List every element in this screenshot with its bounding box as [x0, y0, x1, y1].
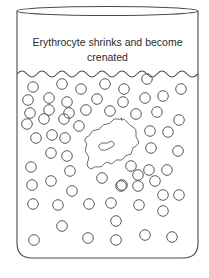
particle: [62, 151, 73, 162]
particle: [142, 74, 153, 85]
particle: [65, 166, 76, 177]
particle: [111, 235, 122, 246]
particle: [60, 133, 71, 144]
label: Erythrocyte shrinks and become crenated: [33, 36, 183, 63]
particle: [31, 133, 42, 144]
particle: [84, 199, 95, 210]
particle: [83, 233, 94, 244]
particle: [44, 93, 55, 104]
particle: [163, 127, 174, 138]
particle: [144, 165, 155, 176]
particle: [23, 95, 34, 106]
particle: [105, 106, 116, 117]
particle: [39, 114, 50, 125]
particle: [46, 148, 57, 159]
particle: [152, 107, 163, 118]
particle: [174, 115, 185, 126]
particle: [150, 176, 161, 187]
particle: [126, 161, 137, 172]
particle: [28, 82, 39, 93]
particle: [140, 230, 151, 241]
particle: [173, 146, 184, 157]
particle: [29, 235, 40, 246]
particle: [27, 180, 38, 191]
label-line-1: Erythrocyte shrinks and become: [33, 36, 183, 48]
liquid-surface: [17, 71, 198, 77]
particle: [119, 84, 130, 95]
particle: [146, 143, 157, 154]
particle: [67, 186, 78, 197]
particle: [167, 232, 178, 243]
particle: [81, 105, 92, 116]
particle: [92, 94, 103, 105]
osmosis-beaker-diagram: Erythrocyte shrinks and become crenated: [0, 0, 209, 278]
particle: [111, 216, 122, 227]
particle: [131, 109, 142, 120]
particle: [140, 93, 151, 104]
particle: [176, 84, 187, 95]
particle: [28, 199, 39, 210]
particle: [76, 84, 87, 95]
particle: [133, 181, 144, 192]
particle: [162, 165, 173, 176]
beaker-rim: [17, 7, 198, 16]
particle: [145, 126, 156, 137]
particle: [26, 162, 37, 173]
particle: [62, 97, 73, 108]
particle: [174, 190, 185, 201]
particle: [133, 170, 144, 181]
particle: [53, 200, 64, 211]
particle: [47, 130, 58, 141]
particle: [158, 190, 169, 201]
particle: [118, 97, 129, 108]
particle: [57, 221, 68, 232]
particle: [57, 79, 68, 90]
particle: [22, 119, 33, 130]
particle: [97, 173, 108, 184]
particle: [25, 108, 36, 119]
particle: [106, 198, 117, 209]
solute-particles: [22, 74, 187, 246]
particle: [46, 176, 57, 187]
particle: [134, 200, 145, 211]
particle: [158, 91, 169, 102]
particle: [158, 206, 169, 217]
beaker-body: [17, 11, 198, 258]
particle: [100, 79, 111, 90]
crenated-cell-nucleus: [99, 141, 114, 150]
label-line-2: crenated: [87, 51, 128, 63]
particle: [74, 121, 85, 132]
